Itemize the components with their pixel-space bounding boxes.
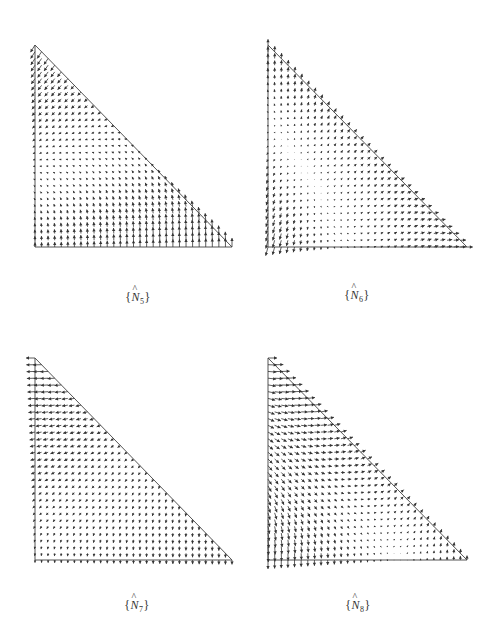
vector-plot-n8 [0, 0, 496, 636]
arrow-field [266, 356, 468, 569]
caption-n8: {^N8} [345, 598, 371, 614]
